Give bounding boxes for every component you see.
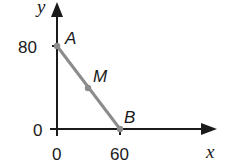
- y-axis-arrow-icon: [51, 2, 63, 17]
- x-tick-label-0: 0: [52, 145, 61, 164]
- coordinate-diagram: y x 80 0 0 60 A M B: [0, 0, 231, 168]
- point-b-label: B: [124, 108, 135, 127]
- x-tick-label-60: 60: [110, 145, 129, 164]
- point-a-label: A: [64, 29, 76, 48]
- point-a: [54, 43, 60, 49]
- point-m-label: M: [93, 67, 108, 86]
- point-m: [85, 85, 91, 91]
- y-tick-label-80: 80: [18, 38, 37, 57]
- y-tick-label-0: 0: [33, 121, 42, 140]
- point-b: [117, 126, 123, 132]
- y-axis-label: y: [35, 0, 46, 17]
- x-axis-arrow-icon: [201, 123, 217, 135]
- x-axis-label: x: [205, 141, 215, 162]
